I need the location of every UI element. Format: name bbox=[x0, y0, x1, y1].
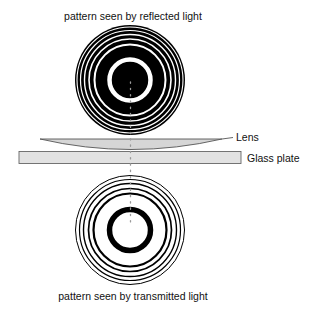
lens-leader-line bbox=[222, 138, 233, 140]
lens-label: Lens bbox=[236, 131, 259, 143]
reflected-light-caption: pattern seen by reflected light bbox=[64, 10, 202, 22]
lens-shape bbox=[40, 139, 222, 150]
reflected-light-pattern bbox=[75, 25, 185, 135]
transmitted-light-caption: pattern seen by transmitted light bbox=[58, 290, 207, 302]
newtons-rings-diagram: pattern seen by reflected light Lens Gla… bbox=[0, 0, 312, 313]
glass-plate-label: Glass plate bbox=[247, 152, 300, 164]
transmitted-light-pattern bbox=[75, 175, 185, 285]
